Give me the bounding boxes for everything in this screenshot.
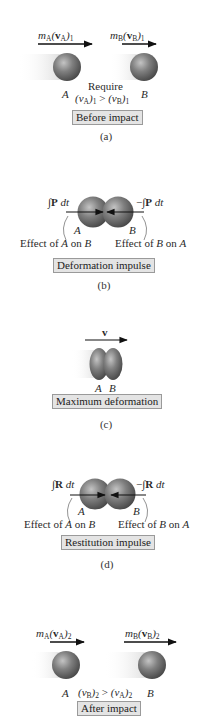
body-b-label: B bbox=[133, 505, 140, 517]
effect-b-on-a-label: Effect of B on A bbox=[115, 237, 186, 249]
sphere-b bbox=[130, 53, 158, 81]
panel-e-graphics bbox=[32, 642, 176, 679]
impulse-left-label: ∫P dt bbox=[48, 196, 69, 208]
momentum-b-label: mB(vB)1 bbox=[110, 29, 145, 45]
caption-a: (a) bbox=[100, 130, 112, 142]
effect-a-on-b-label: Effect of A on B bbox=[24, 518, 95, 530]
caption-c: (c) bbox=[100, 418, 112, 430]
sphere-b bbox=[138, 651, 166, 679]
deformed-sphere-b bbox=[104, 348, 123, 380]
body-a-label: A bbox=[74, 224, 81, 236]
sphere-a bbox=[52, 651, 80, 679]
effect-a-on-b-label: Effect of A on B bbox=[20, 237, 91, 249]
momentum-a-label: mA(vA)2 bbox=[36, 627, 71, 643]
effect-b-on-a-label: Effect of B on A bbox=[118, 518, 189, 530]
stage-label-restitution-impulse: Restitution impulse bbox=[61, 535, 155, 550]
body-b-label: B bbox=[147, 687, 154, 699]
sphere-b bbox=[105, 479, 136, 510]
body-a-label: A bbox=[62, 88, 69, 100]
stage-label-after-impact: After impact bbox=[77, 701, 141, 716]
velocity-label: v bbox=[102, 326, 108, 338]
panel-a-graphics bbox=[18, 44, 158, 81]
impulse-right-label: −∫P dt bbox=[136, 196, 163, 208]
velocity-condition: (vA)1 > (vB)1 bbox=[75, 92, 129, 108]
require-label: Require bbox=[88, 80, 123, 92]
caption-d: (d) bbox=[101, 558, 114, 570]
body-a-label: A bbox=[95, 382, 102, 394]
sphere-a bbox=[53, 53, 81, 81]
body-a-label: A bbox=[62, 687, 69, 699]
body-b-label: B bbox=[129, 224, 136, 236]
caption-b: (b) bbox=[98, 279, 111, 291]
momentum-b-label: mB(vB)2 bbox=[125, 627, 160, 643]
impact-diagram: mA(vA)1 mB(vB)1 Require A B (vA)1 > (vB)… bbox=[0, 0, 211, 720]
stage-label-deformation-impulse: Deformation impulse bbox=[53, 258, 155, 273]
impulse-right-label: −∫R dt bbox=[136, 478, 165, 490]
body-b-label: B bbox=[141, 88, 148, 100]
body-b-label: B bbox=[109, 382, 116, 394]
impulse-left-label: ∫R dt bbox=[52, 478, 74, 490]
diagram-graphics bbox=[0, 0, 211, 720]
momentum-a-label: mA(vA)1 bbox=[38, 29, 73, 45]
stage-label-maximum-deformation: Maximum deformation bbox=[52, 394, 162, 409]
body-a-label: A bbox=[78, 505, 85, 517]
panel-c-graphics bbox=[72, 340, 127, 380]
stage-label-before-impact: Before impact bbox=[72, 110, 143, 125]
velocity-condition: (vB)2 > (vA)2 bbox=[78, 686, 132, 702]
